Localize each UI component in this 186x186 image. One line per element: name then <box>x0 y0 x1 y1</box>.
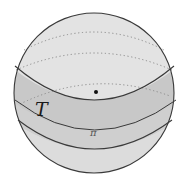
band-label: T <box>35 98 49 120</box>
sphere-diagram: T π <box>0 0 186 186</box>
center-point <box>94 90 98 94</box>
plane-label: π <box>89 127 97 138</box>
sphere-svg: T π <box>0 0 186 186</box>
